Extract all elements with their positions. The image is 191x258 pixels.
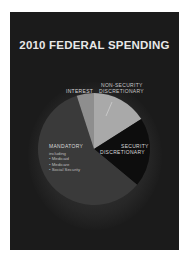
label-mandatory-medicaid: • Medicaid	[49, 156, 69, 161]
poster: 2010 FEDERAL SPENDING INTEREST NON-SECUR…	[10, 12, 179, 250]
label-security-line2: DISCRETIONARY	[100, 149, 145, 155]
pie-chart	[10, 12, 179, 250]
label-non-security-line2: DISCRETIONARY	[99, 88, 144, 94]
label-mandatory-medicare: • Medicare	[49, 162, 69, 167]
label-mandatory: MANDATORY	[49, 143, 83, 149]
label-mandatory-social-security: • Social Security	[49, 167, 80, 172]
label-interest: INTEREST	[66, 88, 93, 94]
